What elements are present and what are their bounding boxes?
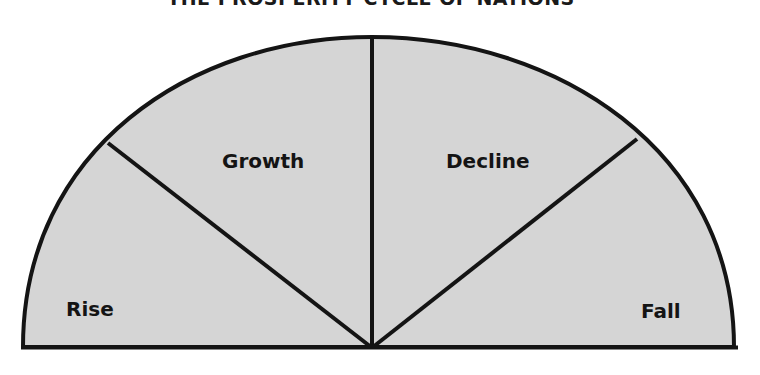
- semicircle-fill: [23, 37, 734, 347]
- prosperity-cycle-diagram: Rise Growth Decline Fall: [0, 0, 760, 375]
- segment-label-rise: Rise: [66, 297, 114, 321]
- segment-label-fall: Fall: [641, 299, 681, 323]
- segment-label-decline: Decline: [446, 149, 530, 173]
- segment-label-growth: Growth: [222, 149, 304, 173]
